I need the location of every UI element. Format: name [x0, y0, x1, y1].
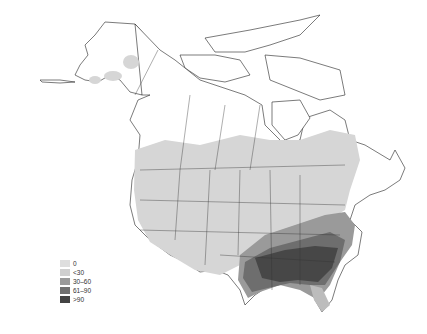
legend-label: >90: [73, 296, 84, 303]
legend-item-1: <30: [60, 268, 91, 277]
legend-swatch: [60, 278, 70, 285]
legend-item-0: 0: [60, 259, 91, 268]
legend-item-4: >90: [60, 295, 91, 304]
legend-swatch: [60, 260, 70, 267]
legend-item-3: 61–90: [60, 286, 91, 295]
legend-swatch: [60, 296, 70, 303]
legend-item-2: 30–60: [60, 277, 91, 286]
legend-swatch: [60, 269, 70, 276]
legend-swatch: [60, 287, 70, 294]
legend-label: 61–90: [73, 287, 91, 294]
map-legend: 0 <30 30–60 61–90 >90: [60, 259, 91, 304]
legend-label: <30: [73, 269, 84, 276]
legend-label: 0: [73, 260, 77, 267]
legend-label: 30–60: [73, 278, 91, 285]
